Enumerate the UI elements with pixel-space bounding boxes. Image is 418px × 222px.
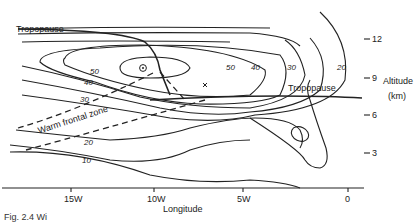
- y-tick-9: 9: [372, 73, 377, 83]
- isotach-label-40-left: 40: [84, 78, 93, 87]
- isotach-label-30-left: 30: [80, 95, 89, 104]
- tropopause-label-right: Tropopause: [288, 83, 336, 93]
- figure-caption: Fig. 2.4 Wi: [4, 212, 47, 222]
- x-axis-title: Longitude: [163, 204, 203, 214]
- small-closed-contour: [289, 124, 311, 144]
- y-axis-units: (km): [388, 91, 406, 101]
- y-tick-12: 12: [372, 34, 382, 44]
- x-tick-10w: 10W: [147, 194, 166, 204]
- y-tick-6: 6: [372, 110, 377, 120]
- x-tick-0: 0: [345, 194, 350, 204]
- isotach-label-50-right: 50: [226, 63, 235, 72]
- x-tick-5w: 5W: [237, 194, 251, 204]
- x-tick-15w: 15W: [64, 194, 83, 204]
- isotach-label-40-right: 40: [251, 63, 260, 72]
- cross-marker: [203, 83, 207, 87]
- y-axis-title: Altitude: [383, 76, 413, 86]
- tropopause-line-left: [18, 29, 170, 95]
- isotach-label-10-left: 10: [82, 156, 91, 165]
- isotach-label-30-right: 30: [287, 63, 296, 72]
- isotach-label-20-right: 20: [337, 63, 346, 72]
- isotach-label-50-left: 50: [90, 67, 99, 76]
- isotach-label-20-left: 20: [84, 138, 93, 147]
- jet-core-marker: [140, 65, 147, 72]
- tropopause-label-left: Tropopause: [16, 24, 64, 34]
- y-tick-3: 3: [372, 148, 377, 158]
- isotach-core: [120, 57, 190, 78]
